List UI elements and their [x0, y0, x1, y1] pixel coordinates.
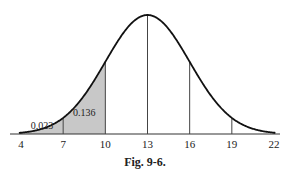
x-tick-label-4: 4 — [18, 138, 24, 150]
x-tick-label-16: 16 — [184, 138, 196, 150]
x-tick-label-22: 22 — [269, 138, 280, 150]
x-tick-label-10: 10 — [100, 138, 112, 150]
x-tick-label-19: 19 — [226, 138, 238, 150]
figure-caption: Fig. 9-6. — [0, 155, 290, 170]
x-tick-label-13: 13 — [142, 138, 154, 150]
area-label-0: 0.023 — [31, 120, 54, 131]
area-label-1: 0.136 — [73, 107, 96, 118]
normal-curve-chart: 0.0230.136471013161922 — [0, 0, 290, 177]
x-tick-label-7: 7 — [60, 138, 66, 150]
